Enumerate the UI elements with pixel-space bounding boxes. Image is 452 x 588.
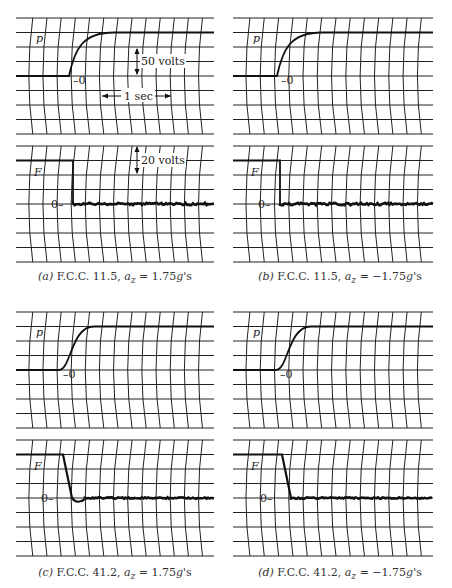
caption-b-body: F.C.C. 11.5, — [274, 270, 345, 283]
f-zero-label: 0– — [41, 492, 54, 505]
caption-a-rest: = 1.75 — [136, 270, 177, 283]
p-zero-label: –0 — [63, 368, 76, 381]
p-scale-label: 50 volts — [141, 55, 185, 68]
time-scale-label: 1 sec — [124, 90, 153, 103]
caption-d-rest: = −1.75 — [356, 566, 406, 579]
caption-c-tag: (c) — [38, 566, 53, 579]
caption-d: (d) F.C.C. 41.2, az = −1.75g's — [240, 566, 440, 581]
f-scale-label: 20 volts — [141, 154, 185, 167]
f-zero-label: 0– — [260, 492, 273, 505]
f-label: F — [250, 166, 259, 179]
p-zero-label: –0 — [73, 74, 86, 87]
f-zero-label: 0– — [51, 198, 64, 211]
p-zero-label: –0 — [281, 74, 294, 87]
f-label: F — [33, 166, 42, 179]
panel-c: p–0F0– — [16, 312, 214, 556]
caption-a: (a) F.C.C. 11.5, az = 1.75g's — [14, 270, 216, 285]
caption-c-tail: 's — [183, 566, 192, 579]
oscillograph-figure: p–0F0–50 volts1 sec20 voltsp–0F0–p–0F0–p… — [0, 0, 452, 588]
f-zero-label: 0– — [258, 198, 271, 211]
caption-c: (c) F.C.C. 41.2, az = 1.75g's — [14, 566, 216, 581]
panel-d: p–0F0– — [233, 312, 433, 556]
caption-b-rest: = −1.75 — [356, 270, 406, 283]
caption-d-tail: 's — [413, 566, 422, 579]
p-zero-label: –0 — [280, 368, 293, 381]
caption-d-tag: (d) — [258, 566, 274, 579]
oscillograph-traces: p–0F0–50 volts1 sec20 voltsp–0F0–p–0F0–p… — [0, 0, 452, 588]
caption-a-tail: 's — [183, 270, 192, 283]
caption-b: (b) F.C.C. 11.5, az = −1.75g's — [240, 270, 440, 285]
caption-d-body: F.C.C. 41.2, — [274, 566, 345, 579]
p-label: p — [253, 326, 260, 339]
caption-b-tail: 's — [413, 270, 422, 283]
f-label: F — [250, 460, 259, 473]
f-label: F — [33, 460, 42, 473]
panel-a: p–0F0–50 volts1 sec20 volts — [16, 18, 214, 262]
caption-b-tag: (b) — [258, 270, 274, 283]
p-label: p — [253, 32, 260, 45]
caption-c-rest: = 1.75 — [135, 566, 176, 579]
caption-a-body: F.C.C. 11.5, — [53, 270, 124, 283]
panel-b: p–0F0– — [233, 18, 433, 262]
p-label: p — [36, 32, 43, 45]
p-label: p — [36, 326, 43, 339]
caption-a-tag: (a) — [38, 270, 53, 283]
caption-c-body: F.C.C. 41.2, — [53, 566, 124, 579]
